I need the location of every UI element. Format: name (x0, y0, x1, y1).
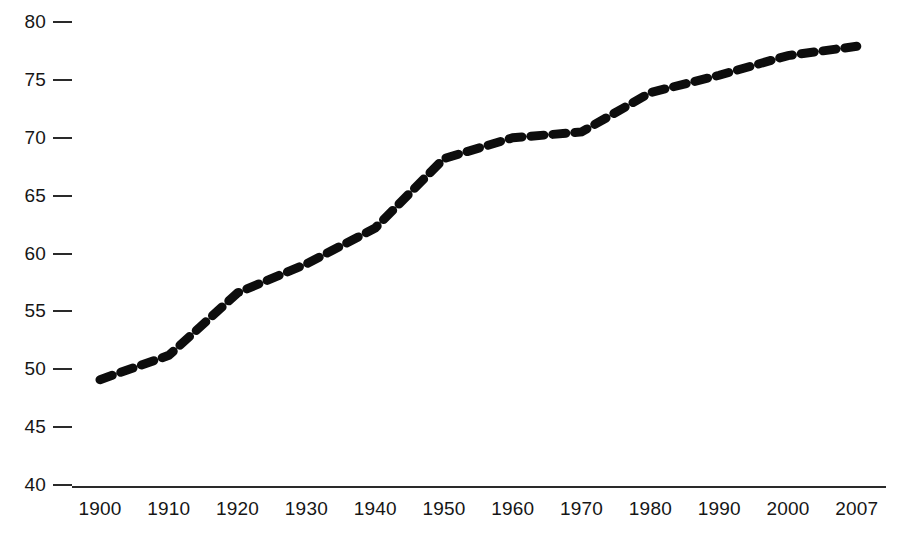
x-axis-tick-label-1910: 1910 (147, 498, 190, 520)
y-axis-tick-mark (53, 253, 72, 255)
y-axis-tick-mark (53, 21, 72, 23)
y-axis-tick-mark (53, 310, 72, 312)
y-axis-tick-label: 40 (0, 473, 46, 497)
x-axis-tick-label-1980: 1980 (629, 498, 672, 520)
y-axis-tick-70: 70 (0, 126, 72, 150)
x-axis-tick-label-2000: 2000 (766, 498, 809, 520)
y-axis-tick-mark (53, 484, 72, 486)
x-axis-tick-label-2007: 2007 (835, 498, 878, 520)
x-axis-tick-label-1930: 1930 (285, 498, 328, 520)
x-axis-tick-label-1950: 1950 (422, 498, 465, 520)
y-axis-tick-label: 45 (0, 415, 46, 439)
series-line-life-expectancy (100, 46, 857, 379)
y-axis-tick-label: 70 (0, 126, 46, 150)
y-axis-tick-65: 65 (0, 184, 72, 208)
y-axis-tick-label: 75 (0, 68, 46, 92)
y-axis-tick-50: 50 (0, 357, 72, 381)
y-axis-tick-mark (53, 195, 72, 197)
y-axis-tick-80: 80 (0, 10, 72, 34)
plot-area (0, 0, 900, 544)
chart-canvas: 404550556065707580 190019101920193019401… (0, 0, 900, 544)
x-axis-tick-label-1920: 1920 (216, 498, 259, 520)
x-axis-tick-label-1990: 1990 (698, 498, 741, 520)
y-axis-tick-mark (53, 426, 72, 428)
y-axis-tick-mark (53, 137, 72, 139)
y-axis-tick-60: 60 (0, 242, 72, 266)
y-axis-tick-55: 55 (0, 299, 72, 323)
y-axis-tick-40: 40 (0, 473, 72, 497)
y-axis-tick-45: 45 (0, 415, 72, 439)
y-axis-tick-label: 80 (0, 10, 46, 34)
x-axis-tick-label-1900: 1900 (78, 498, 121, 520)
x-axis-tick-label-1970: 1970 (560, 498, 603, 520)
y-axis-tick-label: 55 (0, 299, 46, 323)
x-axis-baseline (72, 486, 886, 488)
y-axis-tick-mark (53, 79, 72, 81)
x-axis-tick-label-1960: 1960 (491, 498, 534, 520)
y-axis-tick-mark (53, 368, 72, 370)
y-axis-tick-label: 50 (0, 357, 46, 381)
y-axis-tick-label: 65 (0, 184, 46, 208)
y-axis-tick-label: 60 (0, 242, 46, 266)
y-axis-tick-75: 75 (0, 68, 72, 92)
x-axis-tick-label-1940: 1940 (354, 498, 397, 520)
